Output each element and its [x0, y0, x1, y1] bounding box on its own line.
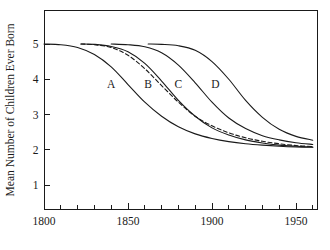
x-axis-ticks	[61, 203, 313, 210]
plot-frame	[45, 11, 318, 210]
y-tick-label-1: 1	[33, 179, 39, 191]
x-tick-label-1800: 1800	[33, 215, 56, 227]
curve-a	[44, 44, 313, 147]
chart-figure: 12345 1800185019001950 ABCD Mean Number …	[0, 0, 330, 250]
y-axis-tick-labels: 12345	[33, 38, 39, 191]
curve-c	[81, 44, 313, 147]
y-tick-label-4: 4	[33, 73, 39, 85]
y-tick-label-3: 3	[33, 109, 39, 121]
x-tick-label-1850: 1850	[117, 215, 140, 227]
line-chart-canvas: 12345 1800185019001950 ABCD Mean Number …	[0, 0, 330, 250]
curve-label-d: D	[211, 78, 219, 90]
y-axis-ticks	[45, 44, 50, 185]
x-tick-label-1900: 1900	[201, 215, 224, 227]
curve-label-b: B	[144, 78, 152, 90]
curve-label-c: C	[175, 78, 183, 90]
data-curves	[44, 44, 313, 147]
y-axis-title: Mean Number of Children Ever Born	[4, 23, 16, 196]
curve-b	[81, 44, 313, 147]
y-tick-label-2: 2	[33, 144, 39, 156]
curve-e	[148, 44, 313, 140]
curve-label-a: A	[107, 78, 116, 90]
curve-d	[111, 44, 313, 144]
y-tick-label-5: 5	[33, 38, 39, 50]
x-axis-tick-labels: 1800185019001950	[33, 215, 308, 227]
x-tick-label-1950: 1950	[285, 215, 308, 227]
